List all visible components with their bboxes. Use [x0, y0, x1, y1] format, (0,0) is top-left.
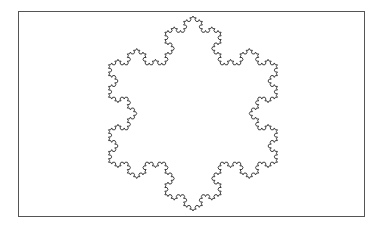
koch-snowflake-path	[109, 16, 278, 211]
koch-snowflake-canvas	[0, 0, 380, 228]
